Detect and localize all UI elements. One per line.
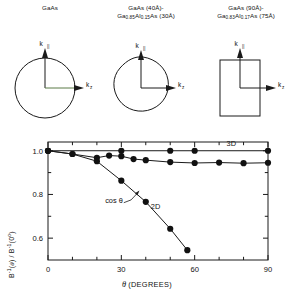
panel-caption-line1: GaAs	[42, 4, 58, 11]
y-tick-label: 1.0	[32, 147, 43, 156]
data-point-quasi-3D	[192, 160, 198, 166]
data-point-2D	[184, 247, 190, 253]
fermi-surface-rectangle: k || k z	[198, 26, 294, 126]
data-point-3D	[167, 148, 173, 154]
panel-caption-sl2: GaAs (90Å)- Ga0.83Al0.17As (75Å)	[198, 4, 294, 22]
annotation-cos-θ: cos θ	[105, 196, 123, 205]
axis-label-k-parallel: k	[39, 40, 43, 47]
panel-caption-line1: GaAs (90Å)-	[228, 4, 264, 11]
y-axis-label: B-1(θ) / B-1(0o)	[6, 231, 16, 278]
y-tick-label: 0.8	[32, 190, 43, 199]
angular-dependence-plot: 03060900.60.81.03D2Dcos θ B-1(θ) / B-1(0…	[0, 128, 294, 300]
data-point-quasi-3D	[216, 159, 222, 165]
axis-sub-z: z	[282, 85, 285, 90]
panel-caption-line2: Ga0.83Al0.17As (75Å)	[198, 12, 294, 22]
y-tick-label: 0.6	[32, 234, 43, 243]
data-point-3D	[265, 148, 271, 154]
x-axis-label: θ (DEGREES)	[0, 280, 294, 289]
annotation-2D: 2D	[151, 202, 160, 211]
fermi-surface-warped: k || k z	[96, 26, 196, 126]
axis-sub-parallel: ||	[143, 46, 145, 51]
panel-caption-bulk: GaAs	[2, 4, 98, 12]
panel-bulk-gaas: GaAs k || k z	[2, 0, 98, 128]
axis-label-k-parallel: k	[234, 40, 238, 47]
axis-sub-parallel: ||	[242, 44, 244, 49]
data-point-quasi-3D	[106, 152, 112, 158]
panel-caption-line1: GaAs (40Å)-	[128, 4, 164, 11]
data-point-quasi-3D	[240, 160, 246, 166]
x-tick-label: 0	[46, 265, 50, 274]
x-tick-label: 30	[117, 265, 125, 274]
data-point-3D	[192, 148, 198, 154]
panel-caption-sl1: GaAs (40Å)- Ga0.85Al0.15As (30Å)	[96, 4, 196, 22]
axis-sub-z: z	[90, 85, 93, 90]
data-point-quasi-3D	[265, 160, 271, 166]
axis-sub-z: z	[182, 85, 185, 90]
panel-caption-line2: Ga0.85Al0.15As (30Å)	[96, 12, 196, 22]
fermi-surface-circle: k || k z	[2, 26, 98, 126]
data-point-2D	[94, 158, 100, 164]
data-point-quasi-3D	[118, 153, 124, 159]
data-point-2D	[118, 178, 124, 184]
figure-root: GaAs k || k z GaAs (40Å)- G	[0, 0, 294, 300]
x-tick-label: 60	[190, 265, 198, 274]
data-point-quasi-3D	[143, 157, 149, 163]
data-point-quasi-3D	[130, 156, 136, 162]
panel-superlattice-40-30: GaAs (40Å)- Ga0.85Al0.15As (30Å) k || k …	[96, 0, 196, 128]
data-point-3D	[118, 148, 124, 154]
panel-superlattice-90-75: GaAs (90Å)- Ga0.83Al0.17As (75Å) k || k …	[198, 0, 294, 128]
data-point-quasi-3D	[167, 159, 173, 165]
axis-label-k-parallel: k	[135, 42, 139, 49]
data-point-2D	[45, 148, 51, 154]
axis-sub-parallel: ||	[47, 44, 49, 49]
fermi-surface-panels: GaAs k || k z GaAs (40Å)- G	[0, 0, 294, 128]
data-point-2D	[167, 226, 173, 232]
x-tick-label: 90	[264, 265, 272, 274]
chart-canvas: 03060900.60.81.03D2Dcos θ	[0, 128, 294, 300]
annotation-3D: 3D	[227, 139, 236, 148]
annotation-leader-line	[124, 193, 137, 202]
data-point-2D	[143, 199, 149, 205]
data-point-2D	[69, 151, 75, 157]
